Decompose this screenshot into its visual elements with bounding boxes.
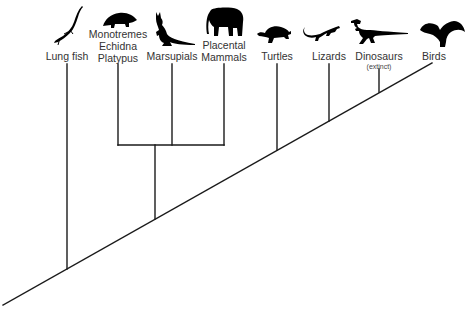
label-text: Dinosaurs: [355, 50, 402, 62]
label-text: Marsupials: [147, 50, 198, 62]
kangaroo-icon: [152, 10, 196, 48]
label-text: Lung fish: [46, 50, 89, 62]
lungfish-icon: [52, 4, 84, 46]
lizard-icon: [302, 24, 342, 44]
extinct-note: (extinct): [355, 62, 402, 71]
label-lung-fish: Lung fish: [46, 50, 89, 62]
echidna-icon: [101, 10, 139, 30]
label-text: Platypus: [89, 52, 147, 64]
label-turtles: Turtles: [261, 50, 293, 62]
label-text: Birds: [422, 50, 446, 62]
turtle-icon: [256, 23, 292, 45]
label-text: Placental: [201, 39, 247, 51]
label-birds: Birds: [422, 50, 446, 62]
label-text: Lizards: [312, 50, 346, 62]
label-text: Mammals: [201, 51, 247, 63]
label-placental-mammals: Placental Mammals: [201, 39, 247, 63]
label-text: Monotremes: [89, 28, 147, 40]
cladogram-diagram: Lung fish Monotremes Echidna Platypus Ma…: [0, 0, 473, 309]
label-text: Turtles: [261, 50, 293, 62]
label-monotremes: Monotremes Echidna Platypus: [89, 28, 147, 64]
label-dinosaurs: Dinosaurs (extinct): [355, 50, 402, 71]
bird-icon: [418, 18, 466, 48]
label-marsupials: Marsupials: [147, 50, 198, 62]
elephant-icon: [205, 6, 245, 38]
label-text: Echidna: [89, 40, 147, 52]
dinosaur-icon: [349, 18, 411, 45]
label-lizards: Lizards: [312, 50, 346, 62]
